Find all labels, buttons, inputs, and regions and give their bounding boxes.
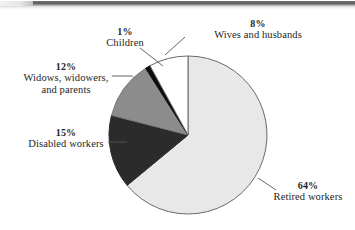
pie-label-children-category: Children (88, 37, 162, 49)
pie-label-retired-category: Retired workers (262, 191, 354, 203)
pie-label-wives-and-husbands: 8% Wives and husbands (178, 18, 338, 41)
pie-label-retired-percent: 64% (262, 180, 354, 191)
pie-chart-figure: 8% Wives and husbands 1% Children 12% Wi… (0, 0, 355, 230)
pie-label-widows-widowers-parents: 12% Widows, widowers, and parents (2, 61, 130, 96)
pie-label-disabled-category: Disabled workers (4, 138, 128, 150)
pie-label-widows-category-line2: and parents (2, 84, 130, 96)
pie-label-disabled-percent: 15% (4, 127, 128, 138)
pie-label-widows-category-line1: Widows, widowers, (2, 72, 130, 84)
pie-label-children-percent: 1% (88, 26, 162, 37)
pie-label-wives-percent: 8% (178, 18, 338, 29)
pie-label-disabled-workers: 15% Disabled workers (4, 127, 128, 150)
pie-label-widows-percent: 12% (2, 61, 130, 72)
leader-line-children (140, 48, 163, 66)
pie-label-wives-category: Wives and husbands (178, 29, 338, 41)
pie-label-children: 1% Children (88, 26, 162, 49)
pie-label-retired-workers: 64% Retired workers (262, 180, 354, 203)
